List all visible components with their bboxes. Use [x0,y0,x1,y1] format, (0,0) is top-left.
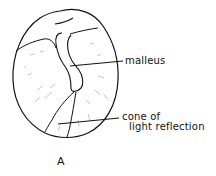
right-fold-line [70,28,98,34]
cone-of-light-label-line2: light reflection [129,122,205,132]
membrane-texture [24,43,108,131]
top-fold-arc [55,18,73,24]
membrane-outline [13,9,118,137]
left-fold-line [16,39,56,51]
cone-right-edge [67,92,76,137]
eardrum-drawing [0,0,216,176]
panel-label: A [57,156,65,167]
malleus-label: malleus [125,56,166,66]
eardrum-diagram: malleus cone of light reflection A [0,0,216,176]
malleus-handle-right [68,35,83,91]
cone-leader-line [58,118,119,124]
malleus-leader-line [70,61,123,66]
